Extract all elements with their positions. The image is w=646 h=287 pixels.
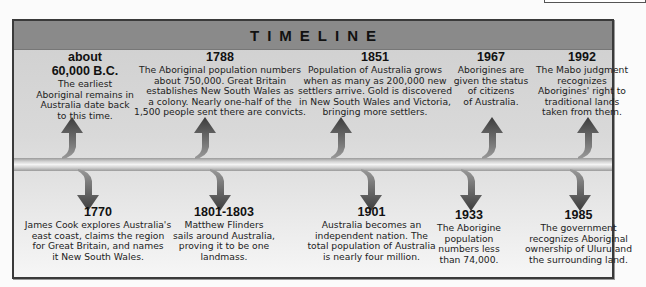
event-1985: 1985 The government recognizes Aborigina… — [521, 209, 636, 265]
event-description: Matthew Flinders sails around Australia,… — [164, 220, 284, 262]
event-year: 1985 — [521, 209, 636, 222]
event-year: 1770 — [18, 206, 178, 219]
event-year: 1851 — [285, 51, 465, 64]
event-1901: 1901 Australia becomes an independent na… — [304, 206, 439, 262]
event-year: 1801-1803 — [164, 206, 284, 219]
event-1851: 1851 Population of Australia grows when … — [285, 51, 465, 118]
event-description: Aborigines are given the status of citiz… — [441, 65, 541, 107]
arrow-up-icon — [574, 117, 602, 159]
event-1967: 1967 Aborigines are given the status of … — [441, 51, 541, 107]
timeline-bar — [14, 158, 612, 171]
corner-frame-fragment — [544, 0, 646, 3]
timeline-panel: TIMELINE about 60,000 B.C. The earliest … — [12, 19, 614, 279]
event-description: The Mabo judgment recognizes Aborigines'… — [527, 65, 637, 118]
event-year: 1933 — [429, 209, 509, 222]
arrow-up-icon — [58, 117, 86, 159]
arrow-up-icon — [327, 117, 355, 159]
event-1770: 1770 James Cook explores Australia's eas… — [18, 206, 178, 262]
event-1992: 1992 The Mabo judgment recognizes Aborig… — [527, 51, 637, 118]
event-year: 1992 — [527, 51, 637, 64]
timeline-header: TIMELINE — [14, 21, 612, 50]
event-description: The government recognizes Aboriginal own… — [521, 223, 636, 265]
timeline-title: TIMELINE — [242, 27, 384, 44]
event-1933: 1933 The Aborigine population numbers le… — [429, 209, 509, 265]
event-description: Population of Australia grows when as ma… — [285, 65, 465, 118]
event-1801-1803: 1801-1803 Matthew Flinders sails around … — [164, 206, 284, 262]
event-description: Australia becomes an independent nation.… — [304, 220, 439, 262]
event-year: 1967 — [441, 51, 541, 64]
arrow-up-icon — [191, 117, 219, 159]
event-description: James Cook explores Australia's east coa… — [18, 220, 178, 262]
arrow-down-icon — [457, 169, 485, 211]
event-description: The Aborigine population numbers less th… — [429, 223, 509, 265]
event-year: 1901 — [304, 206, 439, 219]
arrow-down-icon — [566, 169, 594, 211]
arrow-up-icon — [478, 117, 506, 159]
